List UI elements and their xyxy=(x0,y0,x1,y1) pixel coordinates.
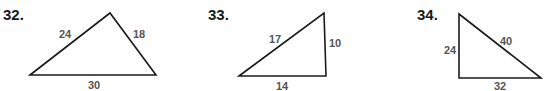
side-label-left: 24 xyxy=(59,28,72,40)
side-label-left: 24 xyxy=(444,44,457,56)
problem-number: 34. xyxy=(417,6,438,23)
side-label-bottom: 32 xyxy=(494,80,506,91)
side-label-hypotenuse: 40 xyxy=(500,35,512,47)
problem-number: 32. xyxy=(3,6,24,23)
triangle xyxy=(30,13,156,75)
side-label-right: 18 xyxy=(133,28,145,40)
side-label-bottom: 30 xyxy=(88,79,100,91)
problem-34: 34. 24 40 32 xyxy=(417,6,541,91)
triangle-problems-figure: 32. 24 18 30 33. 17 10 14 34. 24 40 32 xyxy=(0,0,546,91)
side-label-right: 10 xyxy=(329,37,341,49)
problem-number: 33. xyxy=(208,6,229,23)
triangle xyxy=(239,13,326,76)
problem-33: 33. 17 10 14 xyxy=(208,6,341,91)
problem-32: 32. 24 18 30 xyxy=(3,6,156,91)
side-label-bottom: 14 xyxy=(276,80,289,91)
side-label-hypotenuse: 17 xyxy=(269,33,281,45)
